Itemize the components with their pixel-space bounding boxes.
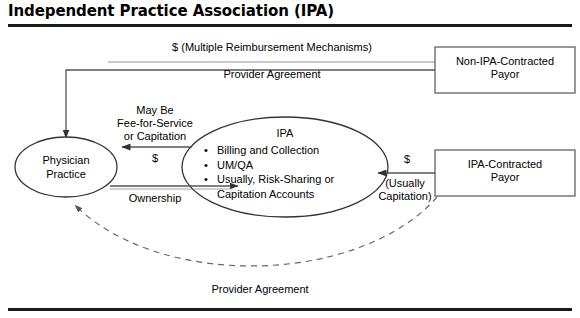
ipa-bullet-text: Usually, Risk-Sharing or: [217, 173, 334, 185]
edge-label-ownership: Ownership: [105, 192, 205, 205]
payment-terms-line1: May Be: [105, 104, 205, 117]
ipa-bullet-item: • UM/QA: [217, 158, 376, 173]
bottom-divider: [8, 308, 572, 311]
non-ipa-payor-line2: Payor: [437, 68, 573, 81]
right-capitation-line2: Capitation): [374, 190, 436, 203]
edge-label-right-capitation: (Usually Capitation): [374, 177, 436, 203]
edge-label-bottom-provider-agreement: Provider Agreement: [155, 283, 365, 296]
physician-practice-line1: Physician: [16, 153, 116, 167]
ipa-payor-line2: Payor: [437, 171, 573, 184]
node-label-ipa-payor: IPA-Contracted Payor: [437, 158, 573, 184]
bullet-icon: •: [204, 143, 208, 158]
ipa-bullet-text: Capitation Accounts: [217, 188, 314, 200]
ipa-bullet-text: Billing and Collection: [217, 144, 319, 156]
node-label-ipa-bullets: • Billing and Collection • UM/QA • Usual…: [204, 143, 376, 201]
node-label-non-ipa-payor: Non-IPA-Contracted Payor: [437, 55, 573, 81]
figure-canvas: Independent Practice Association (IPA): [0, 0, 580, 318]
edge-label-payment-terms: May Be Fee-for-Service or Capitation: [105, 104, 205, 143]
ipa-bullet-list: • Billing and Collection • UM/QA • Usual…: [204, 143, 376, 201]
node-label-physician-practice: Physician Practice: [16, 153, 116, 181]
payment-terms-line2: Fee-for-Service: [105, 117, 205, 130]
node-label-ipa-heading: IPA: [235, 126, 335, 140]
edge-label-right-money: $: [378, 153, 436, 166]
ipa-bullet-item-continuation: Capitation Accounts: [217, 187, 376, 202]
physician-practice-line2: Practice: [16, 167, 116, 181]
ipa-bullet-item: • Usually, Risk-Sharing or: [217, 172, 376, 187]
ipa-payor-line1: IPA-Contracted: [437, 158, 573, 171]
non-ipa-payor-line1: Non-IPA-Contracted: [437, 55, 573, 68]
bullet-icon: •: [204, 158, 208, 173]
right-capitation-line1: (Usually: [374, 177, 436, 190]
edge-label-top-money: $ (Multiple Reimbursement Mechanisms): [108, 41, 436, 54]
edge-label-top-provider-agreement: Provider Agreement: [108, 68, 436, 81]
edge-label-middle-money: $: [118, 152, 192, 165]
ipa-bullet-item: • Billing and Collection: [217, 143, 376, 158]
bullet-icon: •: [204, 172, 208, 187]
ipa-bullet-text: UM/QA: [217, 159, 253, 171]
payment-terms-line3: or Capitation: [105, 130, 205, 143]
